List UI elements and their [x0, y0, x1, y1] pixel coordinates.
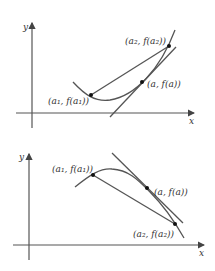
x-axis-label: x: [189, 116, 194, 126]
label-a1: (a₁, f(a₁)): [48, 96, 90, 106]
label-a2: (a₂, f(a₂)): [125, 36, 167, 46]
label-a1: (a₁, f(a₁)): [52, 164, 94, 174]
point-a1: [89, 93, 93, 97]
y-axis-label: y: [18, 152, 25, 162]
secant-line: [93, 175, 175, 224]
diagram-canvas: y x (a₁, f(a₁)) (a, f(a)) (a₂, f(a₂)) y …: [0, 0, 215, 271]
convex-diagram: y x (a₁, f(a₁)) (a, f(a)) (a₂, f(a₂)): [16, 22, 194, 128]
point-a2: [173, 222, 177, 226]
point-a: [140, 80, 144, 84]
concave-diagram: y x (a₁, f(a₁)) (a, f(a)) (a₂, f(a₂)): [13, 152, 204, 260]
label-a: (a, f(a)): [147, 79, 181, 89]
curve: [75, 169, 184, 238]
point-a: [145, 186, 149, 190]
label-a2: (a₂, f(a₂)): [133, 229, 175, 239]
label-a: (a, f(a)): [154, 187, 188, 197]
y-axis-label: y: [22, 22, 29, 32]
x-axis-label: x: [199, 248, 204, 258]
point-a2: [167, 44, 171, 48]
